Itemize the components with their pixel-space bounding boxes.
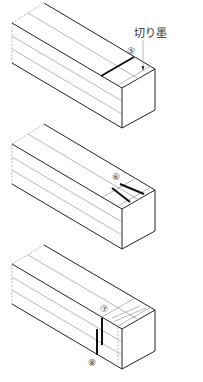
step-8-marker: ⑧	[88, 358, 96, 368]
step-5-marker: ⑤	[127, 46, 135, 56]
mark-line-6a	[120, 184, 144, 194]
mark-line-6b	[112, 188, 130, 202]
step-6-marker: ⑥	[112, 172, 120, 182]
timber-block-3: ⑦ ⑧	[12, 245, 155, 369]
timber-block-1: 切り墨 ⑤	[12, 3, 167, 128]
step-7-marker: ⑦	[100, 304, 108, 314]
cut-mark-label: 切り墨	[134, 27, 167, 40]
timber-block-2: ⑥	[12, 124, 155, 249]
timber-marking-diagram: 切り墨 ⑤ ⑥	[0, 0, 203, 382]
